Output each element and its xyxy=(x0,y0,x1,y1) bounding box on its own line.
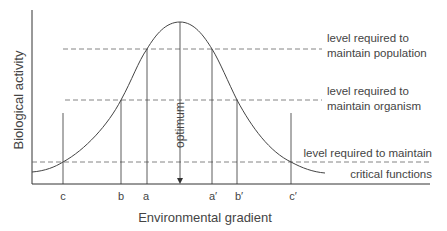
tolerance-diagram: optimum Biological activity c b a a′ b′ … xyxy=(0,0,447,231)
critical-level-label-2: critical functions xyxy=(350,168,432,180)
tick-c-prime: c′ xyxy=(289,190,297,202)
tick-a: a xyxy=(143,190,150,202)
optimum-label: optimum xyxy=(173,102,187,148)
population-level-label-1: level required to xyxy=(327,32,409,44)
organism-level-label-1: level required to xyxy=(327,85,409,97)
critical-level-label-1: level required to maintain xyxy=(304,147,433,159)
population-level-label-2: maintain population xyxy=(327,47,427,59)
optimum-arrow-icon xyxy=(177,178,183,184)
tick-b-prime: b′ xyxy=(235,190,243,202)
organism-level-label-2: maintain organism xyxy=(327,100,421,112)
tick-a-prime: a′ xyxy=(209,190,217,202)
tick-b: b xyxy=(118,190,124,202)
x-axis-label: Environmental gradient xyxy=(138,210,272,225)
tick-c: c xyxy=(60,190,66,202)
y-axis-label: Biological activity xyxy=(11,50,26,149)
activity-curve xyxy=(32,22,325,173)
